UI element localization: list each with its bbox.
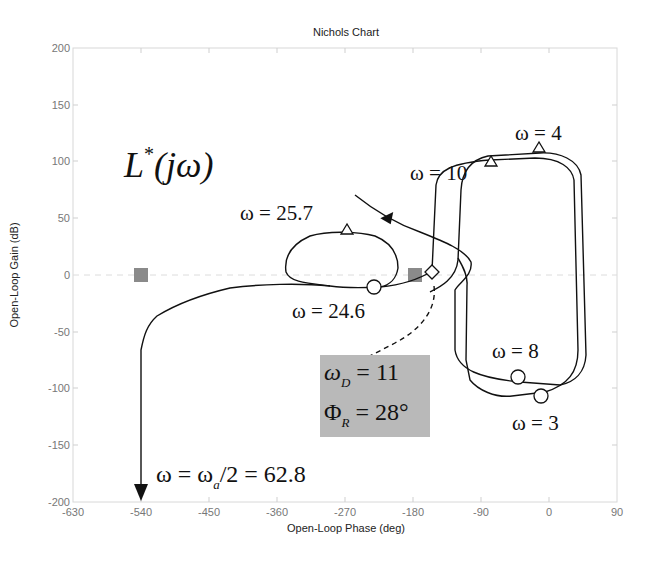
- circle-marker-icon: [534, 389, 548, 403]
- arrowhead-down-icon: [134, 484, 148, 501]
- y-tick-label: 200: [52, 42, 70, 54]
- annotation-w4: ω = 4: [515, 121, 562, 145]
- annotation-w257: ω = 25.7: [240, 201, 313, 225]
- x-tick-label: -450: [198, 506, 220, 518]
- annotation-w246: ω = 24.6: [292, 299, 365, 323]
- y-tick-label: 50: [58, 212, 70, 224]
- y-tick-label: 150: [52, 99, 70, 111]
- x-tick-label: -360: [266, 506, 288, 518]
- x-tick-label: -90: [473, 506, 489, 518]
- x-tick-label: -270: [334, 506, 356, 518]
- locus-curve: [141, 153, 586, 495]
- annotation-w10: ω = 10: [410, 161, 467, 185]
- annotation-w3: ω = 3: [512, 411, 559, 435]
- diamond-marker-icon: [425, 265, 439, 279]
- annotation-wa: ω = ωa/2 = 62.8: [156, 461, 306, 492]
- x-tick-label: 0: [546, 506, 552, 518]
- critical-point-square: [134, 268, 148, 282]
- x-tick-labels: -630 -540 -450 -360 -270 -180 -90 0 90: [62, 506, 623, 518]
- y-tick-label: -200: [48, 496, 70, 508]
- y-tick-label: -100: [48, 382, 70, 394]
- direction-arrow-icon: [380, 208, 396, 224]
- y-tick-label: -150: [48, 439, 70, 451]
- locus-label: L*(jω): [123, 143, 213, 185]
- circle-marker-icon: [367, 280, 381, 294]
- triangle-marker-icon: [341, 224, 353, 234]
- x-tick-label: 90: [611, 506, 623, 518]
- nichols-plot: -630 -540 -450 -360 -270 -180 -90 0 90 2…: [0, 0, 647, 561]
- y-tick-labels: 200 150 100 50 0 -50 -100 -150 -200: [48, 42, 70, 508]
- x-tick-label: -180: [402, 506, 424, 518]
- y-tick-label: 100: [52, 155, 70, 167]
- y-tick-label: 0: [64, 269, 70, 281]
- triangle-marker-icon: [485, 156, 497, 166]
- y-tick-label: -50: [54, 326, 70, 338]
- x-tick-label: -540: [130, 506, 152, 518]
- circle-marker-icon: [511, 370, 525, 384]
- annotation-w8: ω = 8: [492, 339, 539, 363]
- leader-line: [362, 286, 434, 360]
